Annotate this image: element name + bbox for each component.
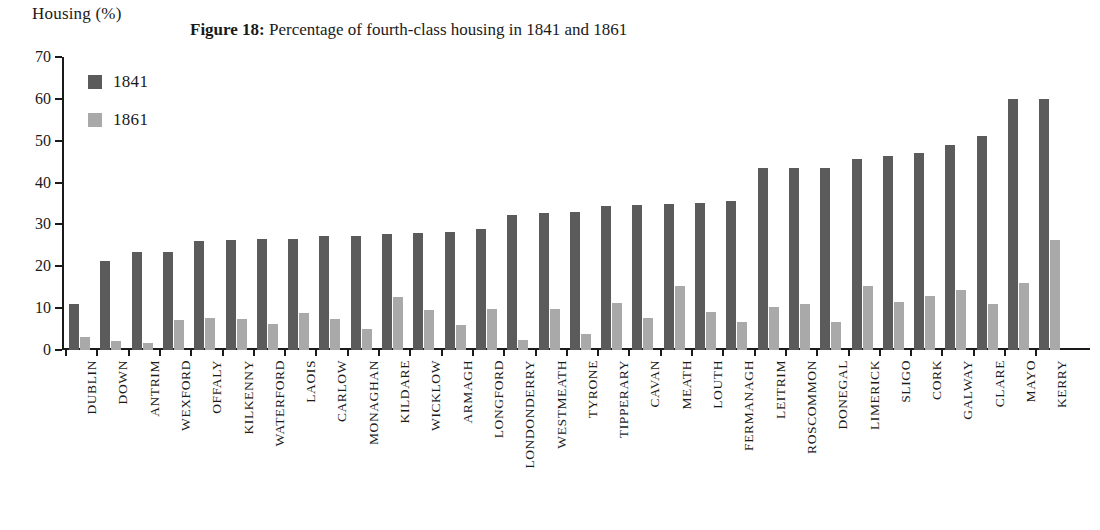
x-label-fermanagh: FERMANAGH: [741, 360, 757, 451]
x-label-mayo: MAYO: [1023, 360, 1039, 402]
x-label-roscommon: ROSCOMMON: [804, 360, 820, 454]
y-tick-label-40: 40: [35, 175, 51, 191]
bar-1841: [100, 261, 110, 350]
x-tick: [722, 350, 724, 356]
x-label-dublin: DUBLIN: [84, 360, 100, 415]
x-label-offaly: OFFALY: [209, 360, 225, 414]
bar-1861: [362, 329, 372, 350]
bar-1861: [800, 304, 810, 350]
bar-1861: [237, 319, 247, 350]
y-tick-10: [55, 307, 62, 309]
bar-1841: [351, 236, 361, 350]
x-label-antrim: ANTRIM: [147, 360, 163, 417]
x-label-carlow: CARLOW: [334, 360, 350, 422]
y-tick-20: [55, 265, 62, 267]
bar-1861: [706, 312, 716, 351]
bar-1841: [945, 145, 955, 350]
x-tick: [973, 350, 975, 356]
bar-1861: [456, 325, 466, 350]
bar-1841: [163, 252, 173, 350]
bar-group: [539, 57, 560, 350]
bar-1841: [789, 168, 799, 350]
x-tick: [96, 350, 98, 356]
bar-group: [132, 57, 153, 350]
x-label-meath: MEATH: [679, 360, 695, 410]
x-tick: [628, 350, 630, 356]
figure-caption: Figure 18: Percentage of fourth-class ho…: [190, 20, 950, 40]
x-label-louth: LOUTH: [710, 360, 726, 409]
bar-1841: [382, 234, 392, 350]
bar-1861: [111, 341, 121, 350]
bar-1841: [820, 168, 830, 350]
bar-1861: [737, 322, 747, 350]
bar-1841: [413, 233, 423, 350]
bar-group: [852, 57, 873, 350]
y-tick-50: [55, 140, 62, 142]
bar-1861: [925, 296, 935, 350]
bar-1861: [956, 290, 966, 350]
bar-1841: [726, 201, 736, 350]
x-tick: [566, 350, 568, 356]
x-tick: [222, 350, 224, 356]
bar-1841: [132, 252, 142, 350]
bar-group: [476, 57, 497, 350]
y-tick-label-70: 70: [35, 49, 51, 65]
bar-1841: [570, 212, 580, 350]
bar-1861: [518, 340, 528, 350]
x-axis-category-labels: DUBLINDOWNANTRIMWEXFORDOFFALYKILKENNYWAT…: [62, 360, 1090, 480]
plot-area: 010203040506070: [62, 57, 1090, 350]
bar-group: [883, 57, 904, 350]
x-tick: [347, 350, 349, 356]
bar-1861: [299, 313, 309, 350]
x-tick: [190, 350, 192, 356]
x-label-waterford: WATERFORD: [272, 360, 288, 446]
bar-1861: [550, 309, 560, 350]
bar-1841: [319, 236, 329, 350]
bar-1841: [257, 239, 267, 350]
x-label-leitrim: LEITRIM: [773, 360, 789, 419]
x-tick: [941, 350, 943, 356]
bar-1841: [288, 239, 298, 350]
bar-1841: [445, 232, 455, 350]
x-label-cavan: CAVAN: [647, 360, 663, 408]
bar-group: [288, 57, 309, 350]
bar-1861: [1050, 240, 1060, 351]
x-label-tipperary: TIPPERARY: [616, 360, 632, 438]
bar-1841: [695, 203, 705, 350]
y-tick-label-50: 50: [35, 133, 51, 149]
bar-1841: [1039, 99, 1049, 350]
bar-group: [507, 57, 528, 350]
x-label-down: DOWN: [115, 360, 131, 404]
y-tick-0: [55, 349, 62, 351]
bar-1861: [581, 334, 591, 350]
bar-1841: [758, 168, 768, 350]
bar-1861: [831, 322, 841, 350]
bar-group: [351, 57, 372, 350]
x-label-kerry: KERRY: [1054, 360, 1070, 408]
bar-group: [601, 57, 622, 350]
bar-group: [977, 57, 998, 350]
bar-1861: [205, 318, 215, 350]
x-tick: [816, 350, 818, 356]
bar-1841: [476, 229, 486, 350]
x-label-laois: LAOIS: [303, 360, 319, 403]
x-tick: [441, 350, 443, 356]
bar-1841: [1008, 99, 1018, 350]
x-tick: [785, 350, 787, 356]
y-tick-label-0: 0: [43, 342, 51, 358]
x-tick: [409, 350, 411, 356]
x-tick: [378, 350, 380, 356]
x-tick: [253, 350, 255, 356]
bar-1841: [226, 240, 236, 351]
bar-1841: [601, 206, 611, 350]
bar-group: [789, 57, 810, 350]
x-label-sligo: SLIGO: [898, 360, 914, 403]
x-tick: [472, 350, 474, 356]
bar-1861: [894, 302, 904, 350]
y-axis-line: [62, 57, 64, 350]
bar-group: [194, 57, 215, 350]
bar-group: [445, 57, 466, 350]
bar-1841: [539, 213, 549, 350]
x-tick: [315, 350, 317, 356]
bar-group: [1039, 57, 1060, 350]
